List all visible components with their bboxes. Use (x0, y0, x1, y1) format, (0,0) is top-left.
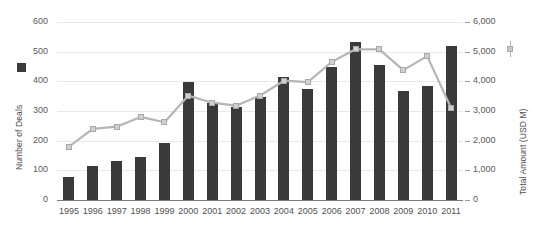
y-tick-label-right: 3,000 (473, 105, 496, 115)
line-marker-1997 (114, 124, 120, 130)
y-tick-label-right: 4,000 (473, 75, 496, 85)
y-tick-label-right: 2,000 (473, 135, 496, 145)
line-marker-2004 (281, 78, 287, 84)
y-tick-mark-right (465, 170, 470, 171)
line-marker-2008 (376, 46, 382, 52)
bar-1996 (87, 166, 98, 200)
line-marker-2009 (400, 67, 406, 73)
chart-container: Number of Deals Total Amount (USD M) 010… (0, 0, 533, 239)
y-tick-label-left: 500 (0, 46, 48, 56)
line-marker-2010 (424, 53, 430, 59)
y-tick-mark-right (465, 22, 470, 23)
y-tick-label-right: 6,000 (473, 16, 496, 26)
y-tick-label-right: 0 (473, 194, 478, 204)
gridline (57, 22, 463, 23)
legend-square-marker (507, 46, 513, 52)
legend-marker-total-amount (505, 41, 515, 57)
line-marker-2001 (209, 100, 215, 106)
y-tick-mark-right (465, 111, 470, 112)
line-marker-2007 (353, 46, 359, 52)
line-marker-2006 (329, 59, 335, 65)
gridline (57, 52, 463, 53)
x-tick-label-2011: 2011 (431, 206, 471, 216)
line-marker-2002 (233, 103, 239, 109)
y-tick-mark-right (465, 52, 470, 53)
bar-2002 (231, 107, 242, 200)
bar-1995 (63, 177, 74, 200)
y-tick-label-right: 5,000 (473, 46, 496, 56)
bar-2000 (183, 82, 194, 200)
y-tick-mark-right (465, 81, 470, 82)
bar-1999 (159, 143, 170, 200)
line-marker-2005 (305, 79, 311, 85)
y-tick-label-left: 100 (0, 164, 48, 174)
bar-1998 (135, 157, 146, 200)
y-tick-label-left: 200 (0, 135, 48, 145)
y-tick-label-right: 1,000 (473, 164, 496, 174)
legend-marker-number-of-deals (17, 63, 26, 72)
bar-2006 (326, 67, 337, 201)
axis-baseline (57, 200, 463, 201)
y-tick-mark-right (465, 141, 470, 142)
line-marker-2011 (448, 105, 454, 111)
bar-2010 (422, 86, 433, 200)
bar-2011 (446, 46, 457, 200)
line-marker-2000 (185, 93, 191, 99)
bar-2007 (350, 42, 361, 200)
bar-2005 (302, 89, 313, 200)
y-tick-label-left: 0 (0, 194, 48, 204)
line-marker-1996 (90, 126, 96, 132)
bar-2004 (278, 77, 289, 200)
y-tick-label-left: 300 (0, 105, 48, 115)
bar-2009 (398, 91, 409, 200)
line-marker-1998 (138, 114, 144, 120)
bar-1997 (111, 161, 122, 200)
gridline (57, 81, 463, 82)
line-marker-1995 (66, 144, 72, 150)
y-tick-label-left: 600 (0, 16, 48, 26)
bar-2003 (255, 97, 266, 200)
y-axis-right-title: Total Amount (USD M) (518, 108, 528, 195)
bar-2001 (207, 103, 218, 200)
line-marker-1999 (161, 119, 167, 125)
line-marker-2003 (257, 93, 263, 99)
plot-area (57, 22, 463, 200)
bar-2008 (374, 65, 385, 200)
y-tick-mark-right (465, 200, 470, 201)
y-tick-label-left: 400 (0, 75, 48, 85)
